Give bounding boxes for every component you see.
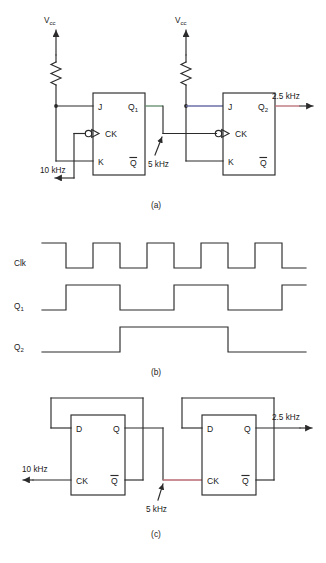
ff1-pin-qbar: Q (130, 158, 137, 169)
ff2-pin-ck: CK (235, 129, 247, 139)
flipflop-1[interactable]: J K CK Q1 Q (85, 93, 145, 175)
waveform-clk (42, 243, 306, 268)
output-2p5khz-a: 2.5 kHz (272, 92, 313, 106)
label-5khz-a: 5 kHz (148, 160, 169, 169)
dff1-pin-qbar: Q (111, 476, 118, 487)
leader-5khz-c (158, 484, 163, 500)
ff1-pin-q: Q1 (128, 102, 139, 113)
interconnect-5khz-c: 5 kHz (125, 428, 202, 514)
interconnect-5khz-a: 5 kHz (145, 106, 217, 169)
ff1-pin-j: J (98, 102, 102, 112)
ff1-ck-bubble-icon (85, 130, 99, 138)
svg-text:Q: Q (260, 158, 267, 168)
dff1-pin-d: D (76, 424, 82, 434)
input-10khz-c: 10 kHz (22, 465, 71, 480)
waveform-q1 (42, 285, 306, 310)
dff2-pin-ck: CK (207, 476, 219, 486)
dff2-pin-d: D (207, 424, 213, 434)
vcc-label-2: Vcc (175, 16, 186, 26)
panel-b: Clk Q1 Q2 (b) (14, 243, 306, 377)
svg-text:Q: Q (242, 476, 249, 486)
input-10khz-a: 10 kHz (40, 134, 85, 179)
output-2p5khz-c: 2.5 kHz (256, 413, 312, 428)
ff1-pin-k: K (98, 157, 104, 167)
figure-root: Vcc J K CK Q1 Q (0, 0, 326, 563)
caption-b: (b) (151, 367, 161, 377)
label-10khz-a: 10 kHz (40, 166, 65, 175)
dff1-pin-q: Q (113, 424, 120, 434)
ff1-pin-ck: CK (105, 129, 117, 139)
resistor-2 (181, 62, 191, 85)
ff2-ck-bubble-icon (215, 130, 229, 138)
caption-a: (a) (151, 200, 161, 210)
dff2-pin-q: Q (244, 424, 251, 434)
waveform-label-clk: Clk (14, 259, 27, 268)
ff2-pin-j: J (228, 102, 232, 112)
flipflop-2[interactable]: J K CK Q2 Q (215, 93, 275, 175)
svg-text:Q: Q (130, 158, 137, 168)
ff2-pin-qbar: Q (260, 158, 267, 169)
vcc-label-1: Vcc (44, 16, 55, 26)
ff2-pin-k: K (228, 157, 234, 167)
resistor-1 (51, 62, 61, 85)
caption-c: (c) (151, 529, 161, 539)
panel-c: D CK Q Q 10 kHz 5 kHz (22, 398, 312, 539)
svg-text:Q: Q (111, 476, 118, 486)
label-2p5khz-a: 2.5 kHz (272, 92, 300, 101)
panel-a: Vcc J K CK Q1 Q (40, 16, 313, 210)
dff1-pin-ck: CK (76, 476, 88, 486)
dff2-pin-qbar: Q (242, 476, 249, 487)
supply-vcc-2: Vcc (175, 16, 223, 161)
leader-5khz-a (155, 137, 162, 155)
waveform-label-q2: Q2 (14, 343, 24, 353)
label-5khz-c: 5 kHz (146, 505, 167, 514)
label-10khz-c: 10 kHz (22, 465, 47, 474)
supply-vcc-1: Vcc (44, 16, 93, 161)
waveform-q2 (42, 327, 306, 352)
ff2-pin-q: Q2 (258, 102, 269, 113)
label-2p5khz-c: 2.5 kHz (272, 413, 300, 422)
waveform-label-q1: Q1 (14, 302, 24, 312)
